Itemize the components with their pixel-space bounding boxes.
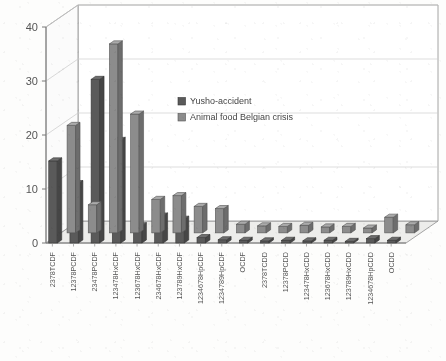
bar-front-face	[261, 241, 269, 243]
bar-side-face	[203, 203, 207, 233]
legend-swatch	[178, 114, 186, 122]
x-axis-label: 2378TCDD	[260, 252, 269, 288]
bar-front-face	[321, 227, 329, 233]
x-axis-label: 12378PCDD	[281, 252, 290, 292]
y-axis-label: 0	[32, 237, 38, 249]
bar-animal-food	[300, 222, 313, 233]
bar-yusho	[49, 158, 62, 243]
bar-side-face	[76, 122, 80, 233]
y-axis-label: 10	[26, 183, 38, 195]
x-axis-label: 1234789HpCDF	[217, 251, 226, 304]
bar-side-face	[139, 111, 143, 233]
legend-swatch	[178, 98, 186, 106]
legend-label: Yusho-accident	[190, 96, 252, 106]
bar-front-face	[197, 238, 205, 243]
y-axis-label: 30	[26, 75, 38, 87]
bar-front-face	[385, 217, 393, 233]
bar-front-face	[194, 206, 202, 232]
bar-front-face	[152, 199, 160, 232]
chart-container: 0102030402378TCDF12378PCDF23478PCDF12347…	[0, 0, 446, 361]
bar-side-face	[160, 196, 164, 233]
bar-front-face	[342, 226, 350, 232]
bar-animal-food	[194, 203, 207, 233]
x-axis-label: 123789HxCDF	[175, 251, 184, 299]
x-axis-label: 1234678HpCDF	[196, 251, 205, 304]
x-axis-label: 1234678HpCDD	[366, 252, 375, 305]
bar-front-face	[173, 196, 181, 233]
bar-front-face	[49, 161, 57, 243]
x-axis-label: 23478PCDF	[90, 251, 99, 291]
bar-front-face	[215, 209, 223, 233]
x-axis-label: OCDD	[387, 252, 396, 273]
bar-animal-food	[152, 196, 165, 233]
bar-animal-food	[406, 222, 419, 233]
bar-animal-food	[385, 214, 398, 233]
bar-animal-food	[109, 41, 122, 233]
bar-animal-food	[236, 221, 249, 233]
bar-side-face	[57, 158, 61, 243]
bar-animal-food	[88, 202, 101, 233]
bar-side-face	[97, 202, 101, 233]
bar-front-face	[388, 240, 396, 243]
y-axis-label: 20	[26, 129, 38, 141]
bar-front-face	[282, 240, 290, 243]
x-axis-label: 234678HxCDF	[154, 251, 163, 299]
bar-animal-food	[173, 193, 186, 233]
bar-animal-food	[215, 206, 228, 233]
legend-item: Yusho-accident	[178, 96, 252, 106]
x-axis-label: 123678HxCDF	[133, 251, 142, 299]
bar-animal-food	[131, 111, 144, 233]
bar-front-face	[239, 240, 247, 243]
x-axis-label: 123789HxCDD	[344, 252, 353, 300]
bar-front-face	[406, 225, 414, 233]
bar-chart-3d: 0102030402378TCDF12378PCDF23478PCDF12347…	[0, 0, 446, 361]
bar-side-face	[118, 41, 122, 233]
bar-front-face	[88, 205, 96, 233]
bar-side-face	[181, 193, 185, 233]
x-axis-label: OCDF	[238, 251, 247, 272]
legend-item: Animal food Belgian crisis	[178, 112, 294, 122]
bar-front-face	[300, 225, 308, 233]
bar-front-face	[324, 240, 332, 243]
bar-front-face	[109, 44, 117, 233]
bar-animal-food	[67, 122, 80, 233]
x-axis-label: 2378TCDF	[48, 251, 57, 287]
bar-animal-food	[258, 223, 271, 233]
bar-animal-food	[342, 223, 355, 233]
bar-front-face	[236, 224, 244, 233]
x-axis-label: 123478HxCDF	[111, 251, 120, 299]
bar-animal-food	[279, 223, 292, 233]
bar-front-face	[366, 239, 374, 243]
bar-front-face	[67, 125, 75, 232]
x-axis-label: 123678HxCDD	[323, 252, 332, 300]
bar-front-face	[279, 226, 287, 232]
bar-front-face	[303, 241, 311, 243]
bar-side-face	[224, 206, 228, 233]
x-axis-label: 123478HxCDD	[302, 252, 311, 300]
bar-front-face	[218, 240, 226, 243]
y-axis-label: 40	[26, 21, 38, 33]
bar-front-face	[364, 228, 372, 233]
bar-front-face	[258, 226, 266, 233]
bar-front-face	[131, 114, 139, 233]
legend-label: Animal food Belgian crisis	[190, 112, 294, 122]
x-axis-label: 12378PCDF	[69, 251, 78, 291]
